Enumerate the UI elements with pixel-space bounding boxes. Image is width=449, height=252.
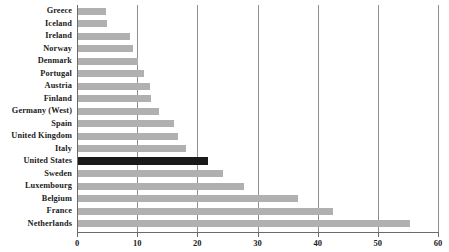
- bar-row: [78, 180, 439, 193]
- category-label: Belgium: [42, 193, 72, 206]
- x-tick-label: 50: [374, 238, 383, 248]
- bar-row: [78, 93, 439, 106]
- bar-row: [78, 155, 439, 168]
- x-tick-mark-30: [258, 233, 259, 237]
- bar-united-states: [78, 157, 208, 165]
- bar-united-kingdom: [78, 133, 178, 140]
- bar-row: [78, 218, 439, 231]
- bar-sweden: [78, 170, 223, 177]
- category-label: United States: [23, 155, 72, 168]
- x-tick-mark-0: [77, 233, 78, 237]
- x-tick-label: 0: [75, 238, 79, 248]
- plot-area: [77, 5, 438, 232]
- bar-finland: [78, 95, 151, 102]
- bar-spain: [78, 120, 174, 127]
- category-label: Spain: [51, 118, 72, 131]
- bar-netherlands: [78, 220, 410, 227]
- category-label: United Kingdom: [11, 130, 72, 143]
- bar-row: [78, 43, 439, 56]
- category-axis-labels: GreeceIcelandIrelandNorwayDenmarkPortuga…: [0, 0, 76, 232]
- category-label: Finland: [44, 93, 72, 106]
- bar-germany-west: [78, 108, 159, 115]
- horizontal-bar-chart: GreeceIcelandIrelandNorwayDenmarkPortuga…: [0, 0, 449, 252]
- category-label: Netherlands: [28, 218, 72, 231]
- bar-greece: [78, 8, 106, 15]
- x-tick-label: 40: [313, 238, 322, 248]
- bar-iceland: [78, 20, 107, 27]
- bar-row: [78, 18, 439, 31]
- x-tick-label: 10: [133, 238, 142, 248]
- bar-row: [78, 118, 439, 131]
- bar-luxembourg: [78, 183, 244, 190]
- bar-row: [78, 205, 439, 218]
- category-label: Italy: [55, 143, 72, 156]
- bar-row: [78, 68, 439, 81]
- category-label: Ireland: [45, 30, 72, 43]
- category-label: Luxembourg: [25, 180, 72, 193]
- category-label: France: [47, 205, 72, 218]
- x-tick-mark-20: [197, 233, 198, 237]
- category-label: Greece: [47, 5, 72, 18]
- category-label: Germany (West): [12, 105, 72, 118]
- x-tick-mark-50: [378, 233, 379, 237]
- bar-italy: [78, 145, 186, 152]
- bar-france: [78, 208, 333, 215]
- x-tick-label: 20: [193, 238, 202, 248]
- bar-denmark: [78, 58, 138, 65]
- bar-row: [78, 130, 439, 143]
- bar-portugal: [78, 70, 144, 77]
- x-tick-mark-40: [318, 233, 319, 237]
- bar-austria: [78, 83, 150, 90]
- bar-row: [78, 55, 439, 68]
- bar-row: [78, 193, 439, 206]
- bar-row: [78, 80, 439, 93]
- bar-row: [78, 5, 439, 18]
- x-tick-mark-10: [137, 233, 138, 237]
- x-tick-mark-60: [438, 233, 439, 237]
- category-label: Norway: [43, 43, 72, 56]
- x-tick-label: 30: [253, 238, 262, 248]
- bar-row: [78, 105, 439, 118]
- category-label: Iceland: [45, 18, 72, 31]
- bar-belgium: [78, 195, 298, 202]
- category-label: Portugal: [40, 68, 72, 81]
- bar-ireland: [78, 33, 130, 40]
- x-tick-label: 60: [434, 238, 443, 248]
- bar-row: [78, 168, 439, 181]
- category-label: Denmark: [38, 55, 72, 68]
- category-label: Austria: [45, 80, 72, 93]
- category-label: Sweden: [44, 168, 72, 181]
- bar-row: [78, 30, 439, 43]
- bar-row: [78, 143, 439, 156]
- bar-norway: [78, 45, 133, 52]
